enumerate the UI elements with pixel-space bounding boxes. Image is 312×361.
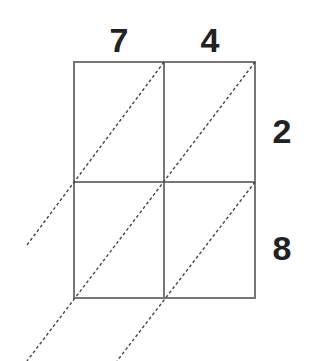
diagonal-dashed-line-1 (27, 62, 164, 245)
diagonal-dashed-line-3 (117, 182, 255, 361)
top-digit-tens: 7 (104, 23, 134, 57)
right-digit-tens: 2 (267, 114, 297, 148)
lattice-grid-svg (0, 0, 312, 361)
diagonal-lines (27, 62, 255, 361)
top-digit-ones: 4 (195, 23, 225, 57)
right-digit-ones: 8 (267, 231, 297, 265)
diagonal-dashed-line-2 (27, 62, 255, 361)
